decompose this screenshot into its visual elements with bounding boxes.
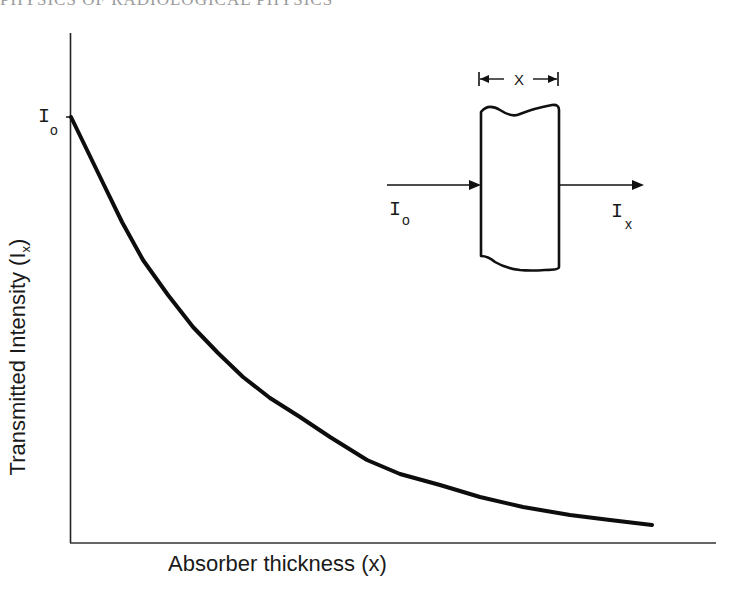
y-origin-label: I: [38, 107, 50, 127]
y-axis-title-text: Transmitted Intensity (I: [5, 252, 30, 475]
attenuation-plot: [0, 0, 743, 613]
incident-intensity-subscript: o: [402, 213, 410, 227]
incident-intensity-label: I: [389, 200, 401, 220]
incident-arrow-icon: [469, 180, 481, 190]
transmitted-intensity-label: I: [611, 202, 623, 222]
absorber-slab: [481, 105, 559, 271]
transmitted-intensity-subscript: x: [625, 217, 632, 231]
absorber-inset: [387, 72, 644, 271]
y-axis-title: Transmitted Intensity (Ix): [5, 239, 33, 476]
transmitted-arrow-icon: [632, 180, 644, 190]
dimension-label: X: [514, 72, 524, 87]
y-origin-subscript: o: [50, 123, 58, 137]
dimension-arrow-left-icon: [480, 75, 489, 83]
attenuation-curve: [71, 117, 652, 525]
x-axis-title: Absorber thickness (x): [168, 551, 387, 577]
y-axis-title-close: ): [5, 239, 30, 246]
y-axis-title-subscript: x: [18, 246, 33, 253]
dimension-arrow-right-icon: [548, 75, 557, 83]
